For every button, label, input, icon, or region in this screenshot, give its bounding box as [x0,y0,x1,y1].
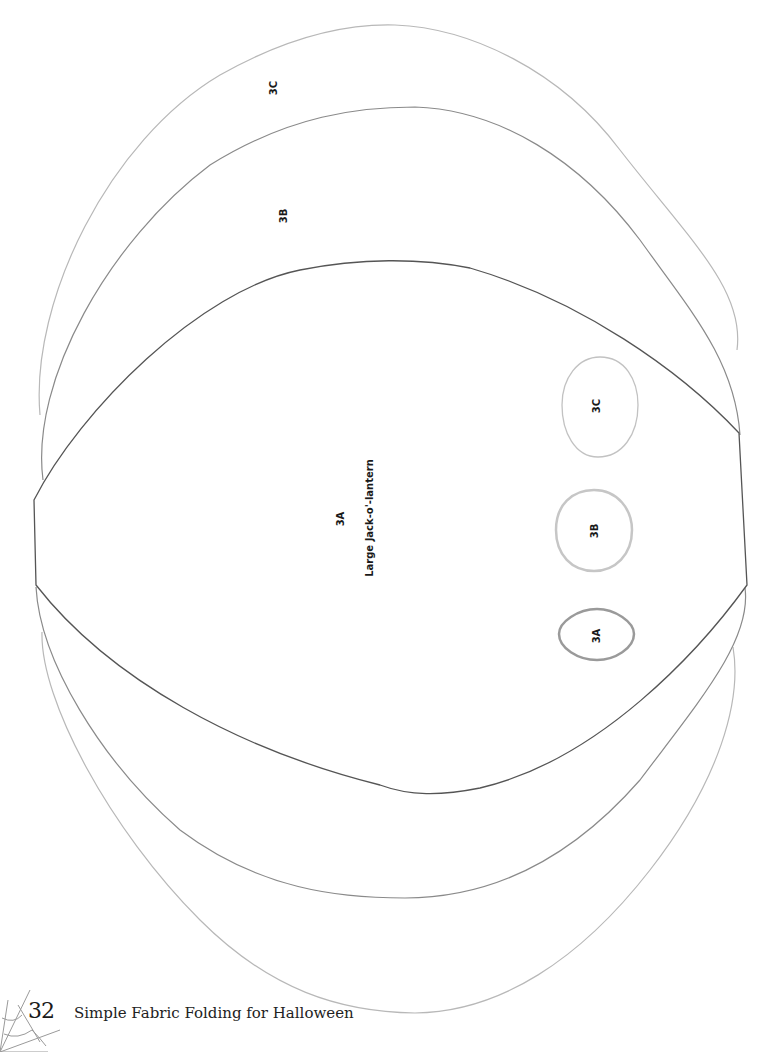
piece-3C-upper-outline [39,25,738,415]
small-piece-3A-label: 3A [591,624,603,648]
piece-3A-outline [34,261,747,794]
piece-3B-lower-outline [36,587,746,898]
page-number: 32 [28,998,54,1023]
small-piece-3C-label: 3C [591,394,603,418]
piece-3C-label: 3C [268,76,280,100]
page-footer: 32 Simple Fabric Folding for Halloween [28,998,354,1023]
piece-3A-label: 3A [335,507,347,531]
piece-3B-label: 3B [278,204,290,228]
piece-3A-caption: Large Jack-o'-lantern [364,458,376,578]
small-piece-3B-label: 3B [589,519,601,543]
piece-3C-lower-outline [42,632,735,1013]
pattern-outlines [0,0,763,1052]
pattern-page: 3C 3B 3A Large Jack-o'-lantern 3C 3B 3A … [0,0,763,1052]
running-title: Simple Fabric Folding for Halloween [74,1004,354,1022]
